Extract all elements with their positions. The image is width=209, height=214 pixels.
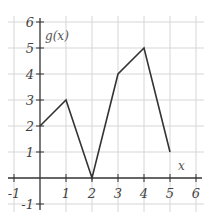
axis-ticks	[14, 22, 196, 204]
y-tick-label: 6	[26, 15, 34, 30]
x-tick-label: 6	[192, 186, 200, 201]
y-tick-label: 2	[25, 119, 34, 134]
axes	[8, 18, 202, 210]
y-tick-labels: -1123456	[21, 15, 34, 212]
y-tick-label: -1	[21, 197, 34, 212]
y-tick-label: 5	[26, 41, 34, 56]
y-tick-label: 4	[25, 67, 34, 82]
grid-lines	[8, 16, 204, 212]
x-tick-label: 5	[166, 186, 174, 201]
x-axis-label: x	[178, 159, 185, 173]
x-tick-labels: -1123456	[8, 186, 200, 201]
x-tick-label: 1	[62, 186, 70, 201]
x-tick-label: -1	[8, 186, 21, 201]
function-graph: -1123456 -1123456 g(x) x	[0, 0, 209, 214]
x-tick-label: 3	[114, 186, 122, 201]
x-tick-label: 2	[87, 186, 96, 201]
y-axis-label: g(x)	[45, 29, 69, 43]
g-of-x-curve	[40, 48, 170, 178]
y-tick-label: 3	[26, 93, 34, 108]
x-tick-label: 4	[139, 186, 148, 201]
y-tick-label: 1	[26, 145, 34, 160]
